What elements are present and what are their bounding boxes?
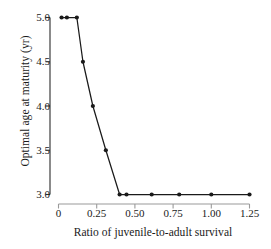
plot-area — [0, 0, 271, 249]
data-point-marker — [177, 192, 181, 196]
axis-spines — [50, 18, 250, 205]
x-tick-marks — [59, 204, 250, 209]
data-point-marker — [81, 60, 85, 64]
data-point-marker — [91, 104, 95, 108]
data-point-marker — [59, 15, 63, 19]
chart-figure: Optimal age at maturity (yr) Ratio of ju… — [0, 0, 271, 249]
data-point-marker — [247, 192, 251, 196]
data-point-marker — [124, 192, 128, 196]
data-point-marker — [75, 15, 79, 19]
data-point-marker — [65, 15, 69, 19]
data-point-marker — [209, 192, 213, 196]
y-tick-marks — [46, 18, 51, 195]
data-line-series — [62, 18, 250, 195]
data-point-markers — [59, 15, 251, 196]
data-point-marker — [118, 192, 122, 196]
data-point-marker — [104, 148, 108, 152]
data-point-marker — [150, 192, 154, 196]
